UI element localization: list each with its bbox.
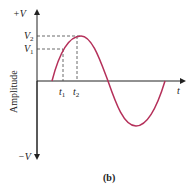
y-bottom-label: −V [18,151,33,162]
v2-label: V2 [24,30,34,43]
t-axis-label: t [177,85,180,96]
y-top-label: +V [13,8,28,19]
t1-label: t1 [59,86,66,99]
sine-wave-diagram: +V −V V2 V1 t1 t2 t Amplitude (b) [0,0,193,185]
amplitude-label: Amplitude [8,70,19,113]
figure-caption: (b) [103,172,115,184]
v1-label: V1 [24,43,34,56]
t2-label: t2 [73,86,80,99]
